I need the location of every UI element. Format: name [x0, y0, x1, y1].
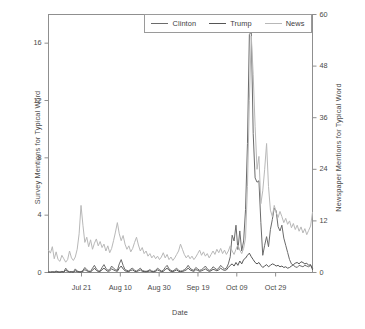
y-tick-right-24: 24 — [320, 164, 346, 173]
x-tick-5: Oct 29 — [253, 283, 299, 292]
y-tick-right-36: 36 — [320, 113, 346, 122]
series-line-trump — [49, 253, 313, 272]
legend-entry-trump[interactable]: Trump — [209, 19, 252, 28]
chart-legend: ClintonTrumpNews — [144, 14, 312, 33]
series-line-clinton — [49, 32, 313, 272]
y-tick-right-60: 60 — [320, 10, 346, 19]
legend-entry-clinton[interactable]: Clinton — [151, 19, 196, 28]
series-line-news — [49, 36, 313, 262]
y-tick-left-0: 0 — [16, 268, 42, 277]
y-tick-left-8: 8 — [16, 153, 42, 162]
plot-frame — [49, 15, 313, 273]
plot-area — [0, 0, 365, 329]
legend-swatch-trump-icon — [209, 23, 226, 24]
chart-container: ClintonTrumpNews Survey Mentions for Typ… — [0, 0, 365, 329]
legend-swatch-news-icon — [265, 23, 282, 24]
y-tick-left-12: 12 — [16, 96, 42, 105]
data-series — [49, 32, 313, 273]
legend-label: News — [286, 19, 305, 28]
x-axis-title: Date — [48, 308, 312, 317]
y-tick-left-4: 4 — [16, 210, 42, 219]
y-tick-right-48: 48 — [320, 61, 346, 70]
legend-swatch-clinton-icon — [151, 23, 168, 24]
legend-entry-news[interactable]: News — [265, 19, 305, 28]
y-tick-right-0: 0 — [320, 268, 346, 277]
y-tick-right-12: 12 — [320, 216, 346, 225]
y-tick-left-16: 16 — [16, 38, 42, 47]
axis-ticks — [45, 15, 317, 277]
legend-label: Trump — [230, 19, 252, 28]
legend-label: Clinton — [172, 19, 196, 28]
